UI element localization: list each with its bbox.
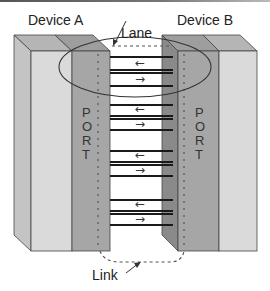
device-a-label: Device A [28,12,84,28]
svg-text:R: R [82,133,91,148]
device-b [162,35,257,251]
arrow-left-icon: ← [135,197,145,211]
svg-text:R: R [195,133,204,148]
arrow-left-icon: ← [135,148,145,162]
link-outline [100,251,184,262]
arrow-left-icon: ← [135,102,145,116]
port-a [72,51,110,251]
arrow-right-icon: → [135,72,145,86]
device-b-label: Device B [177,12,233,28]
device-a [14,35,110,251]
lane-arrows: ← → ← → ← → ← → [135,56,145,226]
lane-label: Lane [121,25,152,41]
arrow-left-icon: ← [135,56,145,70]
svg-text:P: P [82,105,91,120]
link-diagram: ← → ← → ← → ← → P O R T P O R T Device A… [0,0,270,291]
svg-text:O: O [195,119,205,134]
svg-text:O: O [82,119,92,134]
arrow-right-icon: → [135,163,145,177]
arrow-right-icon: → [135,117,145,131]
svg-text:P: P [195,105,204,120]
svg-text:T: T [82,147,90,162]
svg-text:T: T [195,147,203,162]
arrow-right-icon: → [135,212,145,226]
link-label: Link [92,267,119,283]
